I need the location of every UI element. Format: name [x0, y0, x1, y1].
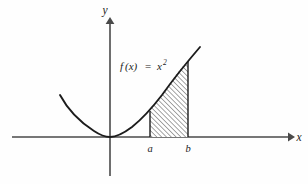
y-axis	[106, 17, 115, 176]
upper-bound-label-b: b	[185, 143, 190, 154]
function-argument: (x)	[125, 60, 138, 73]
function-exponent: 2	[163, 58, 167, 67]
lower-bound-label-a: a	[147, 143, 152, 154]
x-axis-arrowhead	[288, 133, 295, 142]
x-axis-label: x	[295, 131, 302, 143]
figure-container: y x a b f (x) = x 2	[0, 0, 308, 184]
y-axis-label: y	[101, 4, 108, 17]
y-axis-arrowhead	[106, 17, 115, 24]
function-base: x	[156, 60, 162, 72]
function-label: f (x) = x 2	[120, 58, 167, 73]
calculus-area-figure: y x a b f (x) = x 2	[0, 0, 308, 184]
function-equals-sign: =	[145, 60, 151, 72]
